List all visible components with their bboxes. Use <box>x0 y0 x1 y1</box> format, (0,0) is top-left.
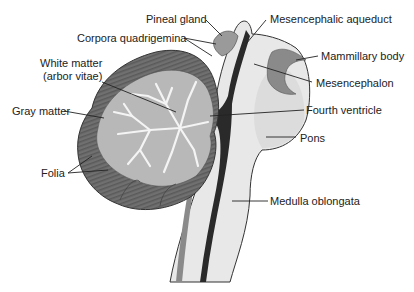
label-medulla-oblongata: Medulla oblongata <box>270 195 360 207</box>
label-white-matter: White matter <box>40 57 102 69</box>
label-mesencephalon: Mesencephalon <box>316 77 394 89</box>
label-pineal-gland: Pineal gland <box>146 13 207 25</box>
label-folia: Folia <box>41 167 65 179</box>
label-fourth-ventricle: Fourth ventricle <box>306 104 382 116</box>
anatomy-diagram: Pineal gland Corpora quadrigemina White … <box>0 0 414 292</box>
diagram-artwork <box>0 0 414 292</box>
label-corpora-quadrigemina: Corpora quadrigemina <box>77 32 186 44</box>
label-mammillary-body: Mammillary body <box>321 50 404 62</box>
label-arbor-vitae: (arbor vitae) <box>43 70 102 82</box>
label-pons: Pons <box>300 132 325 144</box>
label-gray-matter: Gray matter <box>12 105 70 117</box>
label-mesencephalic-aqueduct: Mesencephalic aqueduct <box>270 13 392 25</box>
